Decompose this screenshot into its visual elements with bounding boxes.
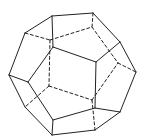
visible-edge (95, 108, 120, 112)
dodecahedron-diagram (0, 0, 144, 139)
hidden-edge (50, 27, 92, 40)
visible-edge (9, 33, 25, 75)
hidden-edge (49, 40, 50, 86)
visible-edge (52, 120, 53, 135)
visible-edges (9, 13, 136, 135)
visible-edge (25, 16, 52, 33)
visible-edge (95, 112, 120, 130)
hidden-edge (92, 13, 93, 27)
visible-edge (120, 72, 136, 112)
dodecahedron-wireframe (0, 0, 144, 139)
visible-edge (96, 42, 120, 62)
visible-edge (52, 130, 95, 135)
visible-edge (52, 16, 53, 47)
visible-edge (93, 13, 120, 42)
visible-edge (53, 47, 96, 62)
visible-edge (53, 108, 95, 120)
hidden-edge (25, 33, 50, 40)
hidden-edge (92, 27, 118, 63)
visible-edge (95, 62, 96, 108)
visible-edge (52, 13, 93, 16)
hidden-edge (49, 86, 92, 100)
visible-edge (25, 107, 52, 135)
hidden-edge (92, 100, 95, 130)
